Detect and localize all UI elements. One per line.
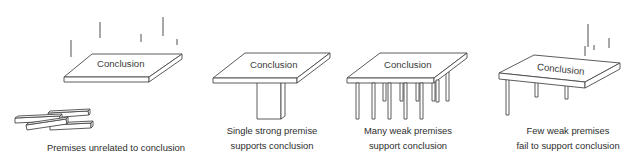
panel-unrelated: Conclusion Premises unrelated to conclus… [15, 17, 185, 153]
slab-label: Conclusion [250, 59, 297, 70]
falling-lines-icon [71, 17, 177, 57]
caption-many-weak-line1: Many weak premises [364, 125, 452, 136]
panel-few-weak: Conclusion Few weak premises fail to sup… [499, 24, 620, 151]
scattered-premise-planks-icon [15, 109, 93, 130]
thin-legs-front-icon [356, 80, 439, 119]
caption-few-weak-line2: fail to support conclusion [516, 140, 619, 151]
argument-support-diagram: Conclusion Premises unrelated to conclus… [0, 0, 634, 161]
conclusion-slab: Conclusion [64, 54, 182, 82]
conclusion-slab-tilted: Conclusion [499, 55, 620, 88]
panel-single-strong: Conclusion Single strong premise support… [213, 53, 330, 151]
slab-label: Conclusion [384, 59, 431, 70]
caption-few-weak-line1: Few weak premises [527, 125, 610, 136]
caption-single-strong-line2: supports conclusion [231, 140, 314, 151]
caption-unrelated: Premises unrelated to conclusion [47, 142, 185, 153]
falling-lines-icon [585, 24, 609, 56]
conclusion-slab: Conclusion [213, 53, 330, 83]
caption-many-weak-line2: support conclusion [369, 140, 447, 151]
caption-single-strong-line1: Single strong premise [227, 125, 318, 136]
panel-many-weak: Conclusion Many weak premises support co… [347, 53, 467, 151]
strong-pillar-icon [257, 80, 285, 119]
slab-label: Conclusion [97, 58, 144, 69]
